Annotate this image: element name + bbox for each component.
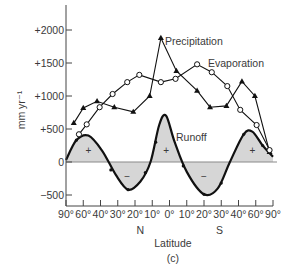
x-tick-label: 60° <box>75 208 91 220</box>
x-tick-label: 30° <box>213 208 229 220</box>
south-label: S <box>216 224 223 236</box>
runoff-point <box>242 133 245 136</box>
runoff-point <box>182 164 185 167</box>
evaporation-point <box>76 132 81 137</box>
runoff-chart: +2000+1500+1000+5000−50090°60°40°30°20°1… <box>0 0 303 272</box>
evaporation-point <box>238 107 243 112</box>
x-tick-label: 20° <box>196 208 212 220</box>
runoff-point <box>75 139 78 142</box>
precipitation-point <box>158 35 164 40</box>
evaporation-point <box>84 122 89 127</box>
runoff-label: Runoff <box>176 131 207 143</box>
precipitation-point <box>147 93 153 98</box>
x-tick-label: 10° <box>179 208 195 220</box>
y-tick-label: 0 <box>58 156 64 168</box>
evaporation-point <box>110 91 115 96</box>
evaporation-label: Evaporation <box>208 57 264 69</box>
y-tick-label: +500 <box>40 123 64 135</box>
y-tick-label: −500 <box>40 189 64 201</box>
panel-label: (c) <box>167 252 179 264</box>
evaporation-point <box>137 72 142 77</box>
evaporation-point <box>267 148 272 153</box>
runoff-point <box>202 193 205 196</box>
x-axis-title: Latitude <box>154 237 192 249</box>
x-tick-label: 90° <box>58 208 74 220</box>
x-tick-label: 90° <box>265 208 281 220</box>
x-tick-label: 10° <box>144 208 160 220</box>
evaporation-point <box>195 62 200 67</box>
north-label: N <box>136 224 144 236</box>
runoff-sign-plus: + <box>163 145 169 156</box>
precipitation-point <box>94 98 100 103</box>
precipitation-point <box>173 68 179 73</box>
evaporation-point <box>173 76 178 81</box>
runoff-sign-minus: − <box>201 171 207 182</box>
y-tick-label: +2000 <box>35 24 65 36</box>
x-tick-label: 40° <box>93 208 109 220</box>
runoff-area <box>66 115 277 196</box>
y-axis-title: mm yr⁻¹ <box>15 90 27 129</box>
x-tick-label: 0° <box>164 208 174 220</box>
x-tick-label: 30° <box>110 208 126 220</box>
runoff-point <box>154 141 157 144</box>
runoff-point <box>109 168 112 171</box>
runoff-point <box>220 182 223 185</box>
evaporation-point <box>254 122 259 127</box>
x-tick-label: 20° <box>127 208 143 220</box>
x-tick-label: 60° <box>248 208 264 220</box>
evaporation-point <box>97 105 102 110</box>
chart-axes: +2000+1500+1000+5000−50090°60°40°30°20°1… <box>15 5 281 264</box>
runoff-point <box>261 144 264 147</box>
precipitation-label: Precipitation <box>165 35 223 47</box>
y-tick-label: +1000 <box>35 90 65 102</box>
runoff-point <box>144 171 147 174</box>
evaporation-point <box>225 84 230 89</box>
runoff-point <box>127 188 130 191</box>
evaporation-point <box>209 70 214 75</box>
x-tick-label: 40° <box>231 208 247 220</box>
precipitation-point <box>239 78 245 83</box>
y-tick-label: +1500 <box>35 57 65 69</box>
evaporation-point <box>158 80 163 85</box>
evaporation-point <box>125 80 130 85</box>
runoff-sign-plus: + <box>86 145 92 156</box>
runoff-sign-minus: − <box>124 171 130 182</box>
runoff-sign-plus: + <box>249 145 255 156</box>
